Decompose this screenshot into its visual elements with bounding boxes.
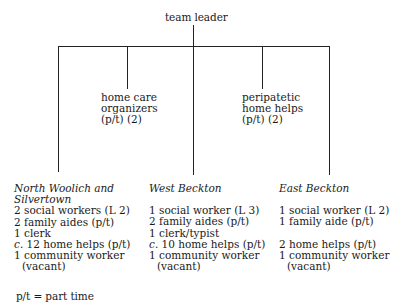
staff-item: (vacant)	[14, 261, 130, 272]
staff-item: (vacant)	[149, 261, 265, 272]
area-title: West Beckton	[149, 183, 265, 194]
node-team-leader: team leader	[165, 11, 228, 23]
area-title: East Beckton	[279, 183, 389, 194]
connector-root-stem	[193, 25, 194, 46]
node-label-line: (p/t) (2)	[242, 114, 303, 125]
node-peripatetic-home-helps: peripatetic home helps (p/t) (2)	[242, 92, 303, 126]
staff-text: 12 home helps (p/t)	[23, 238, 130, 250]
staff-item: (vacant)	[279, 261, 389, 272]
staff-item: 2 family aides (p/t)	[149, 216, 265, 227]
area-east-beckton: East Beckton 1 social worker (L 2) 1 fam…	[279, 183, 389, 272]
spacer	[279, 228, 389, 239]
connector-home-care	[127, 46, 128, 89]
circa-prefix: c.	[149, 238, 158, 250]
node-home-care-organizers: home care organizers (p/t) (2)	[101, 92, 158, 126]
legend-part-time: p/t = part time	[16, 290, 94, 302]
connector-horizontal-bar	[58, 46, 330, 47]
staff-item: 2 social workers (L 2)	[14, 205, 130, 216]
node-label-line: (p/t) (2)	[101, 114, 158, 125]
area-north-woolich-silvertown: North Woolich and Silvertown 2 social wo…	[14, 183, 130, 273]
circa-prefix: c.	[14, 238, 23, 250]
staff-text: 10 home helps (p/t)	[158, 238, 265, 250]
connector-west-beckton	[193, 46, 194, 175]
connector-east-beckton	[329, 46, 330, 175]
staff-item: 1 family aide (p/t)	[279, 216, 389, 227]
connector-peripatetic	[262, 46, 263, 89]
area-west-beckton: West Beckton 1 social worker (L 3) 2 fam…	[149, 183, 265, 272]
connector-north-woolich	[58, 46, 59, 172]
